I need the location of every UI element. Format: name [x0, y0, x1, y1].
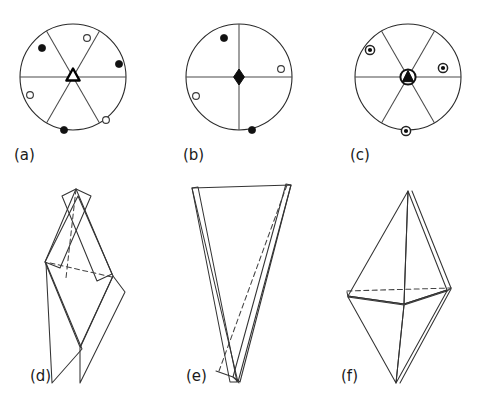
figure-canvas: (a) (b) — [0, 0, 479, 401]
point-filled-circle — [115, 60, 122, 67]
panel-e-crystal-form: (e) — [186, 184, 291, 385]
panel-f-crystal-form: (f) — [341, 191, 451, 385]
triangle-axis-icon — [66, 69, 79, 81]
panel-a-label: (a) — [14, 146, 35, 164]
panel-b-stereogram: (b) — [183, 24, 292, 164]
panel-e-label: (e) — [186, 367, 207, 385]
bipyramid-lower-right-face — [396, 291, 447, 383]
bipyramid-hidden-equator-edge — [347, 288, 451, 291]
point-dot-in-circle — [401, 126, 410, 135]
dot-in-circle-core — [368, 48, 372, 52]
point-dot-in-circle — [365, 45, 374, 54]
bipyramid-equator-left-edge — [347, 292, 348, 297]
panel-a-stereogram: (a) — [14, 24, 126, 164]
triangle-in-circle-axis-icon — [400, 69, 415, 84]
point-dot-in-circle — [438, 63, 447, 72]
bipyramid-upper-right-face — [404, 191, 447, 304]
crystal-symmetry-figure: (a) (b) — [0, 0, 479, 401]
point-filled-circle — [60, 126, 67, 133]
point-open-circle — [27, 92, 34, 99]
rhombohedron-lower-right-face — [80, 276, 125, 383]
rhombohedron-lower-left-face — [46, 263, 82, 383]
tetrahedron-hidden-edge — [219, 185, 287, 371]
rhombohedron-hidden-edge-2 — [50, 263, 112, 277]
bipyramid-upper-far-edge — [412, 191, 451, 288]
bipyramid-equator-front — [348, 290, 447, 304]
rhombohedron-front-face — [45, 196, 113, 347]
panel-d-crystal-form: (d) — [30, 189, 125, 385]
bipyramid-upper-left-face — [348, 191, 408, 304]
point-open-circle — [84, 35, 91, 42]
point-open-circle — [278, 66, 285, 73]
point-filled-circle — [220, 34, 227, 41]
lens-axis-icon — [234, 69, 245, 85]
point-filled-circle — [248, 126, 255, 133]
point-filled-circle — [38, 44, 45, 51]
tetrahedron-right-face — [233, 184, 291, 382]
point-open-circle — [193, 93, 200, 100]
panel-d-label: (d) — [30, 367, 51, 385]
panel-c-stereogram: (c) — [350, 24, 461, 164]
dot-in-circle-core — [441, 66, 445, 70]
point-open-circle — [103, 117, 110, 124]
panel-f-label: (f) — [341, 367, 358, 385]
panel-b-label: (b) — [183, 146, 204, 164]
panel-c-label: (c) — [350, 146, 370, 164]
tetrahedron-front-face — [192, 185, 291, 382]
dot-in-circle-core — [404, 129, 408, 133]
